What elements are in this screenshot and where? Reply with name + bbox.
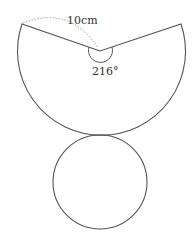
base-circle — [53, 135, 147, 229]
angle-label: 216° — [92, 65, 119, 78]
sector-shape — [18, 24, 186, 135]
cone-net-diagram: 10cm 216° — [0, 0, 195, 249]
radius-label: 10cm — [67, 14, 98, 27]
angle-arc — [89, 47, 113, 62]
